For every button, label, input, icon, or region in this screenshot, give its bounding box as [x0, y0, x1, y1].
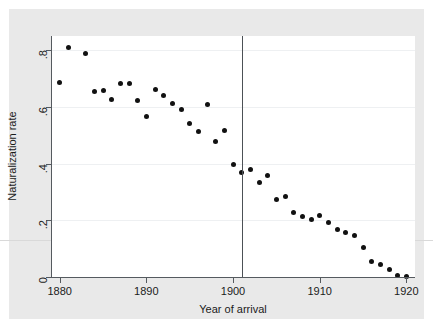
datapoint [265, 173, 270, 178]
datapoint [309, 217, 314, 222]
datapoint [231, 162, 236, 167]
datapoint [205, 102, 210, 107]
datapoint [369, 259, 374, 264]
y-tick-label-.6: .6 [37, 107, 49, 116]
datapoint [257, 180, 262, 185]
datapoint [222, 128, 227, 133]
datapoint [283, 194, 288, 199]
datapoint [109, 97, 114, 102]
datapoint [317, 213, 322, 218]
datapoint [170, 101, 175, 106]
datapoint [361, 245, 366, 250]
datapoint [118, 81, 123, 86]
gridline-y-.2 [51, 220, 415, 221]
y-tick-label-0: 0 [37, 277, 49, 283]
x-tick-1910 [320, 278, 321, 283]
datapoint [83, 51, 88, 56]
x-tick-1880 [60, 278, 61, 283]
x-axis-title: Year of arrival [199, 303, 266, 315]
x-tick-label-1920: 1920 [394, 285, 418, 297]
datapoint [387, 267, 392, 272]
gridline-y-.6 [51, 107, 415, 108]
plot-area [51, 36, 415, 277]
x-tick-1890 [146, 278, 147, 283]
x-tick-1900 [233, 278, 234, 283]
y-axis-line [51, 36, 52, 278]
datapoint [161, 93, 166, 98]
figure-canvas: 0.2.4.6.818801890190019101920 Naturaliza… [0, 0, 433, 332]
gridline-y-.8 [51, 50, 415, 51]
datapoint [92, 89, 97, 94]
datapoint [378, 262, 383, 267]
y-tick-label-.2: .2 [37, 220, 49, 229]
datapoint [135, 98, 140, 103]
datapoint [343, 230, 348, 235]
datapoint [66, 45, 71, 50]
datapoint [196, 129, 201, 134]
datapoint [274, 197, 279, 202]
x-tick-label-1890: 1890 [134, 285, 158, 297]
vertical-reference-line-1901 [242, 36, 243, 278]
y-tick-label-.4: .4 [37, 164, 49, 173]
datapoint [101, 88, 106, 93]
datapoint [179, 107, 184, 112]
datapoint [326, 220, 331, 225]
x-tick-1920 [406, 278, 407, 283]
x-tick-label-1910: 1910 [307, 285, 331, 297]
plot-panel [51, 36, 415, 277]
x-tick-label-1880: 1880 [47, 285, 71, 297]
datapoint [213, 139, 218, 144]
datapoint [57, 80, 62, 85]
datapoint [335, 227, 340, 232]
x-tick-label-1900: 1900 [221, 285, 245, 297]
datapoint [300, 214, 305, 219]
datapoint [187, 121, 192, 126]
datapoint [144, 114, 149, 119]
y-tick-label-.8: .8 [37, 50, 49, 59]
datapoint [248, 167, 253, 172]
datapoint [153, 87, 158, 92]
y-axis-title: Naturalization rate [6, 76, 18, 236]
datapoint [291, 210, 296, 215]
datapoint [352, 233, 357, 238]
datapoint [127, 81, 132, 86]
